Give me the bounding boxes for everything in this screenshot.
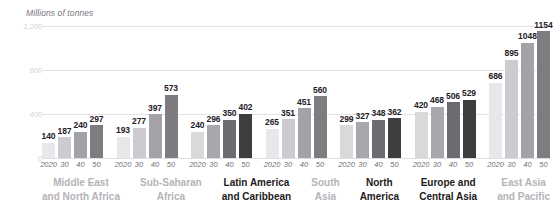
bar-value-label: 265 [265, 118, 279, 127]
bar-slot: 560 [314, 26, 327, 158]
bar[interactable] [42, 143, 55, 158]
bar[interactable] [388, 118, 401, 158]
bar-slot: 686 [489, 26, 502, 158]
bar-value-label: 468 [430, 96, 444, 105]
group-label-line: and North Africa [42, 190, 120, 204]
group-label: Europe andCentral Asia [419, 176, 477, 210]
bar-value-label: 506 [446, 92, 460, 101]
group-label-line: Africa [140, 190, 202, 204]
bar-value-label: 402 [238, 103, 252, 112]
bar[interactable] [298, 108, 311, 158]
x-tick-label: 2020 [340, 160, 353, 172]
bar-group: 420468506529 [415, 26, 476, 158]
x-tick-label: 50 [537, 160, 550, 172]
bar[interactable] [266, 129, 279, 158]
bar[interactable] [463, 100, 476, 158]
bar-slot: 265 [266, 26, 279, 158]
bar[interactable] [149, 114, 162, 158]
bar-slot: 895 [505, 26, 518, 158]
bar-slot: 240 [74, 26, 87, 158]
group-label: SouthAsia [311, 176, 339, 210]
bar[interactable] [537, 31, 550, 158]
bar-group: 265351451560 [266, 26, 327, 158]
bar[interactable] [372, 120, 385, 158]
x-tick-label: 50 [90, 160, 103, 172]
bar-slot: 402 [239, 26, 252, 158]
y-axis-tick-label: 1,200 [17, 22, 42, 31]
x-tick-label: 50 [165, 160, 178, 172]
bar[interactable] [521, 43, 534, 158]
x-tick-label: 40 [223, 160, 236, 172]
bar[interactable] [133, 128, 146, 158]
group-label: NorthAmerica [360, 176, 399, 210]
group-label: Latin Americaand Caribbean [222, 176, 291, 210]
bar-value-label: 560 [313, 86, 327, 95]
group-label-line: and Caribbean [222, 190, 291, 204]
x-tick-label: 50 [314, 160, 327, 172]
bar-value-label: 529 [462, 89, 476, 98]
bar[interactable] [415, 112, 428, 158]
group-label-line: North [360, 176, 399, 190]
bar[interactable] [356, 122, 369, 158]
bar-slot: 140 [42, 26, 55, 158]
bar-value-label: 451 [297, 98, 311, 107]
bar-slot: 1154 [537, 26, 550, 158]
bar[interactable] [239, 114, 252, 158]
bar-slot: 420 [415, 26, 428, 158]
group-label-line: Sub-Saharan [140, 176, 202, 190]
x-tick-label: 30 [282, 160, 295, 172]
x-tick-group: 2020304050 [42, 160, 103, 172]
bar-group: 140187240297 [42, 26, 103, 158]
x-tick-label: 30 [356, 160, 369, 172]
bar-value-label: 193 [116, 126, 130, 135]
x-tick-group: 2020304050 [489, 160, 550, 172]
bar-group: 68689510481154 [489, 26, 550, 158]
bar-value-label: 397 [148, 104, 162, 113]
bar-slot: 299 [340, 26, 353, 158]
bar-value-label: 187 [57, 127, 71, 136]
bar-group: 193277397573 [117, 26, 178, 158]
bar-value-label: 296 [206, 115, 220, 124]
bar[interactable] [505, 60, 518, 158]
y-axis-tick-label: 800 [26, 66, 42, 75]
bar-slot: 193 [117, 26, 130, 158]
x-tick-label: 50 [239, 160, 252, 172]
bar-slot: 506 [447, 26, 460, 158]
bar-slot: 187 [58, 26, 71, 158]
bar[interactable] [191, 132, 204, 158]
bar-value-label: 277 [132, 117, 146, 126]
bar[interactable] [223, 120, 236, 159]
bar[interactable] [282, 119, 295, 158]
bar[interactable] [431, 107, 444, 158]
chart-container: Millions of tonnes 04008001,200 14018724… [0, 0, 556, 212]
bar[interactable] [74, 132, 87, 158]
bar[interactable] [165, 95, 178, 158]
bar-slot: 529 [463, 26, 476, 158]
bar[interactable] [117, 137, 130, 158]
bar[interactable] [340, 125, 353, 158]
x-tick-group: 2020304050 [191, 160, 252, 172]
bar[interactable] [314, 96, 327, 158]
x-tick-label: 40 [447, 160, 460, 172]
x-axis-tick-labels: 2020304050202030405020203040502020304050… [42, 160, 550, 172]
bar[interactable] [90, 125, 103, 158]
x-tick-label: 40 [74, 160, 87, 172]
bar[interactable] [58, 137, 71, 158]
y-axis-title: Millions of tonnes [26, 8, 93, 18]
bar[interactable] [489, 83, 502, 158]
x-tick-label: 2020 [266, 160, 279, 172]
x-tick-label: 40 [521, 160, 534, 172]
bar[interactable] [207, 125, 220, 158]
x-tick-label: 30 [133, 160, 146, 172]
bar[interactable] [447, 102, 460, 158]
x-tick-label: 2020 [117, 160, 130, 172]
x-tick-label: 50 [463, 160, 476, 172]
bar-value-label: 240 [190, 121, 204, 130]
plot-area: 04008001,200 140187240297193277397573240… [26, 26, 550, 158]
group-label: East Asiaand Pacific [497, 176, 550, 210]
group-labels: Middle Eastand North AfricaSub-SaharanAf… [42, 176, 550, 210]
bar-value-label: 362 [387, 108, 401, 117]
group-label-line: Middle East [42, 176, 120, 190]
bar-group: 240296350402 [191, 26, 252, 158]
bar-value-label: 1048 [518, 32, 537, 41]
